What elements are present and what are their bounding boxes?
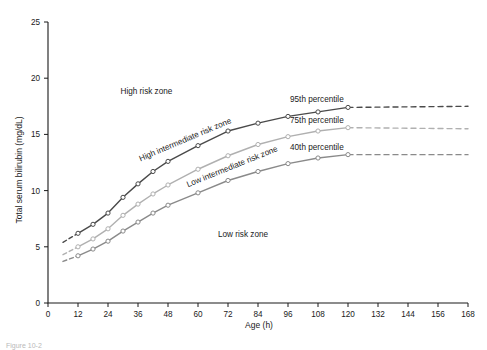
y-tick-label: 25 bbox=[31, 18, 41, 27]
y-tick-label: 5 bbox=[35, 243, 40, 252]
data-point-marker bbox=[166, 183, 170, 187]
axes-group: 0122436486072849610812013214415616805101… bbox=[31, 18, 475, 319]
series-3 bbox=[63, 153, 468, 262]
zone-label-3: Low intermediate risk zone bbox=[185, 144, 279, 189]
data-point-marker bbox=[151, 192, 155, 196]
x-tick-label: 84 bbox=[253, 310, 263, 319]
bilirubin-nomogram-chart: 0122436486072849610812013214415616805101… bbox=[0, 0, 487, 350]
zone-label-1: High risk zone bbox=[121, 87, 173, 96]
data-point-marker bbox=[346, 153, 350, 157]
x-tick-label: 168 bbox=[461, 310, 475, 319]
x-axis-title: Age (h) bbox=[245, 320, 273, 330]
data-point-marker bbox=[151, 169, 155, 173]
zone-label-4: Low risk zone bbox=[218, 230, 269, 239]
data-point-marker bbox=[256, 142, 260, 146]
series-1 bbox=[63, 105, 468, 242]
data-point-marker bbox=[106, 211, 110, 215]
data-point-marker bbox=[196, 144, 200, 148]
series-trailing-dashed-segment bbox=[348, 128, 468, 129]
axis-title-group: Age (h) Total serum bilirubin (mg/dL) bbox=[14, 116, 273, 330]
data-point-marker bbox=[76, 254, 80, 258]
data-point-marker bbox=[106, 239, 110, 243]
series-trailing-dashed-segment bbox=[348, 106, 468, 107]
data-point-marker bbox=[346, 105, 350, 109]
data-point-marker bbox=[121, 195, 125, 199]
data-point-marker bbox=[286, 135, 290, 139]
data-point-marker bbox=[151, 211, 155, 215]
x-tick-label: 120 bbox=[341, 310, 355, 319]
x-tick-label: 36 bbox=[133, 310, 143, 319]
data-point-marker bbox=[121, 229, 125, 233]
figure-caption: Figure 10-2 bbox=[6, 342, 42, 350]
data-point-marker bbox=[256, 121, 260, 125]
x-tick-label: 24 bbox=[103, 310, 113, 319]
x-tick-label: 12 bbox=[73, 310, 83, 319]
data-point-marker bbox=[316, 110, 320, 114]
series-label-2: 75th percentile bbox=[290, 116, 344, 125]
x-tick-label: 72 bbox=[223, 310, 233, 319]
series-label-group: 95th percentile75th percentile40th perce… bbox=[290, 95, 344, 151]
chart-canvas: 0122436486072849610812013214415616805101… bbox=[0, 0, 487, 350]
data-point-marker bbox=[91, 222, 95, 226]
x-tick-label: 156 bbox=[431, 310, 445, 319]
x-tick-label: 60 bbox=[193, 310, 203, 319]
data-point-marker bbox=[256, 169, 260, 173]
data-point-marker bbox=[76, 231, 80, 235]
x-tick-label: 132 bbox=[371, 310, 385, 319]
series-lead-dashed-segment bbox=[63, 233, 78, 242]
y-tick-label: 10 bbox=[31, 187, 41, 196]
x-tick-label: 108 bbox=[311, 310, 325, 319]
y-axis-title: Total serum bilirubin (mg/dL) bbox=[14, 116, 24, 223]
data-point-marker bbox=[226, 178, 230, 182]
data-point-marker bbox=[166, 203, 170, 207]
y-tick-label: 15 bbox=[31, 130, 41, 139]
series-label-3: 40th percentile bbox=[290, 143, 344, 152]
series-label-1: 95th percentile bbox=[290, 95, 344, 104]
data-point-marker bbox=[91, 237, 95, 241]
axis-lines bbox=[48, 22, 468, 303]
data-point-marker bbox=[316, 156, 320, 160]
data-point-marker bbox=[346, 126, 350, 130]
zone-label-2: High intermediate risk zone bbox=[138, 116, 233, 163]
caption-text: Figure 10-2 bbox=[6, 342, 42, 350]
data-point-marker bbox=[136, 182, 140, 186]
data-point-marker bbox=[196, 167, 200, 171]
x-tick-label: 96 bbox=[283, 310, 293, 319]
annotation-group: High risk zoneHigh intermediate risk zon… bbox=[121, 87, 280, 239]
data-point-marker bbox=[166, 159, 170, 163]
y-tick-label: 20 bbox=[31, 74, 41, 83]
data-point-marker bbox=[106, 227, 110, 231]
data-point-marker bbox=[136, 202, 140, 206]
data-point-marker bbox=[196, 191, 200, 195]
data-point-marker bbox=[316, 129, 320, 133]
data-point-marker bbox=[136, 220, 140, 224]
x-tick-label: 0 bbox=[46, 310, 51, 319]
x-tick-label: 48 bbox=[163, 310, 173, 319]
data-point-marker bbox=[121, 213, 125, 217]
data-point-marker bbox=[226, 154, 230, 158]
data-point-marker bbox=[91, 247, 95, 251]
x-tick-label: 144 bbox=[401, 310, 415, 319]
data-point-marker bbox=[76, 245, 80, 249]
data-point-marker bbox=[226, 129, 230, 133]
data-point-marker bbox=[286, 162, 290, 166]
y-tick-label: 0 bbox=[35, 299, 40, 308]
